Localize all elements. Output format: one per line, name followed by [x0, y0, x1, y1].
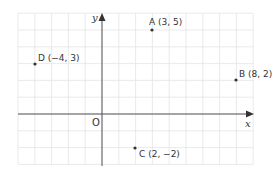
- coordinate-plane: x y O A (3, 5) B (8, 2) C (2, −2) D (−4,…: [0, 0, 280, 179]
- point-c-label: C (2, −2): [139, 149, 180, 159]
- x-axis-label: x: [245, 118, 251, 129]
- origin-label: O: [92, 117, 100, 128]
- y-axis-label: y: [91, 12, 98, 23]
- point-a: A (3, 5): [149, 17, 182, 32]
- y-axis-arrow-icon: [99, 13, 106, 21]
- point-c: C (2, −2): [133, 146, 179, 159]
- grid: [18, 13, 253, 164]
- y-axis: y: [91, 12, 106, 166]
- point-d-label: D (−4, 3): [38, 53, 80, 63]
- point-a-label: A (3, 5): [149, 17, 182, 27]
- point-b-label: B (8, 2): [239, 69, 272, 79]
